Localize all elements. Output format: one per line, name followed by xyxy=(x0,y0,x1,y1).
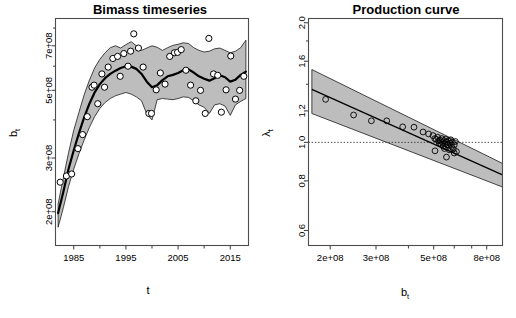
left-x-tick-label: 1985 xyxy=(63,252,84,263)
right-y-tick-label: 1.0 xyxy=(296,136,307,149)
right-x-tick-label: 2e+08 xyxy=(317,252,344,263)
panel-bimass-timeseries: Bimass timeseries 2e+083e+085e+087e+08 1… xyxy=(0,0,258,318)
left-panel-title: Bimass timeseries xyxy=(93,2,207,17)
left-x-tick-label: 2015 xyxy=(220,252,241,263)
right-x-tick-label: 5e+08 xyxy=(420,252,447,263)
panel-production-curve: Production curve 0.60.81.01.21.62.0 2e+0… xyxy=(258,0,516,318)
right-y-axis-ticks: 0.60.81.01.21.62.0 xyxy=(296,16,309,237)
right-y-axis-label: λt xyxy=(260,128,275,137)
left-y-tick-label: 5e+08 xyxy=(43,77,54,104)
right-y-axis-label-subscript: t xyxy=(266,128,275,131)
right-x-axis-label-subscript: t xyxy=(407,292,410,301)
figure-container: Bimass timeseries 2e+083e+085e+087e+08 1… xyxy=(0,0,516,318)
left-x-tick-label: 2005 xyxy=(168,252,189,263)
right-fitted-line-group xyxy=(312,89,503,175)
right-panel-title: Production curve xyxy=(353,2,460,17)
right-x-axis-label: bt xyxy=(401,286,410,301)
left-y-axis-ticks: 2e+083e+085e+087e+08 xyxy=(43,28,56,225)
right-y-tick-label: 0.6 xyxy=(296,224,307,237)
left-y-tick-label: 7e+08 xyxy=(43,32,54,59)
left-y-tick-label: 2e+08 xyxy=(43,198,54,225)
right-confidence-band-group xyxy=(312,70,503,187)
bimass-timeseries-svg: Bimass timeseries 2e+083e+085e+087e+08 1… xyxy=(0,0,258,318)
left-confidence-band-group xyxy=(58,40,246,227)
right-y-tick-label: 1.6 xyxy=(296,55,307,68)
production-curve-svg: Production curve 0.60.81.01.21.62.0 2e+0… xyxy=(258,0,516,318)
left-x-axis-label: t xyxy=(146,284,149,296)
left-x-tick-label: 1995 xyxy=(115,252,136,263)
left-y-axis-label: bt xyxy=(7,128,22,137)
right-y-tick-label: 2.0 xyxy=(296,16,307,29)
right-y-tick-label: 1.2 xyxy=(296,104,307,117)
right-x-tick-label: 8e+08 xyxy=(473,252,500,263)
right-x-tick-label: 3e+08 xyxy=(363,252,390,263)
right-x-axis-ticks: 2e+083e+085e+088e+08 xyxy=(317,246,500,263)
left-y-tick-label: 3e+08 xyxy=(43,145,54,172)
right-y-tick-label: 0.8 xyxy=(296,174,307,187)
left-y-axis-label-subscript: t xyxy=(13,128,22,131)
left-x-axis-ticks: 1985199520052015 xyxy=(63,246,241,263)
